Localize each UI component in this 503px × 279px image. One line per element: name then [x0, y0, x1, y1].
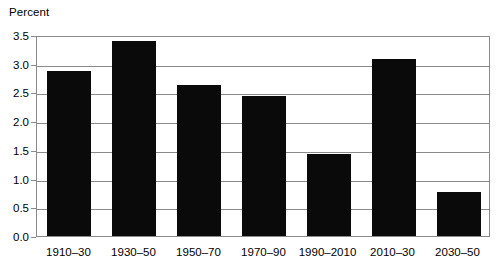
y-tick-label: 0.0	[13, 231, 29, 243]
y-tick-label: 1.0	[13, 174, 29, 186]
x-tick-label: 2030–50	[425, 246, 490, 259]
x-tick-label: 1990–2010	[295, 246, 360, 259]
bar	[112, 41, 156, 236]
bar-chart: Percent 3.53.02.52.01.51.00.50.0 1910–30…	[0, 0, 503, 279]
y-axis-title: Percent	[9, 5, 49, 19]
plot-area	[36, 36, 490, 237]
bar	[242, 96, 286, 236]
bar	[177, 85, 221, 236]
x-tick-label: 1910–30	[36, 246, 101, 259]
y-tick-label: 3.5	[13, 30, 29, 42]
bar	[437, 192, 481, 236]
y-tick-mark	[31, 237, 36, 238]
y-tick-label: 0.5	[13, 202, 29, 214]
y-tick-label: 2.0	[13, 116, 29, 128]
x-tick-label: 1970–90	[231, 246, 296, 259]
y-tick-label: 3.0	[13, 59, 29, 71]
gridline	[37, 66, 489, 67]
bar	[372, 59, 416, 236]
x-tick-label: 1950–70	[166, 246, 231, 259]
x-tick-label: 1930–50	[101, 246, 166, 259]
bar	[47, 71, 91, 236]
bar	[307, 154, 351, 236]
gridline	[37, 94, 489, 95]
y-tick-label: 1.5	[13, 145, 29, 157]
x-tick-label: 2010–30	[360, 246, 425, 259]
y-tick-label: 2.5	[13, 87, 29, 99]
